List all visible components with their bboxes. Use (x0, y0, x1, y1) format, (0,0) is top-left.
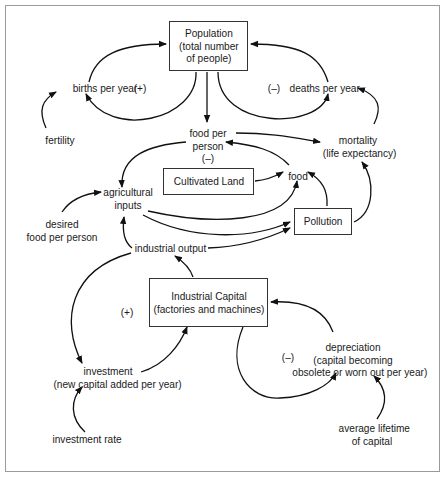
population-sublabel-1: (total number (179, 40, 239, 53)
link-mortality-to-deaths (358, 88, 378, 124)
deaths-per-year: deaths per year (290, 82, 356, 95)
investment-rate: investment rate (52, 433, 117, 446)
link-pollution-to-mortality (354, 162, 371, 222)
stock-pollution: Pollution (294, 208, 352, 235)
industrial-capital-sublabel: (factories and machines) (153, 303, 264, 316)
desired-food-per-person: desired food per person (25, 218, 99, 243)
link-ag-inputs-to-pollution (143, 215, 290, 235)
stock-industrial-capital: Industrial Capital (factories and machin… (149, 278, 268, 327)
link-industrial-output-to-ag-inputs (123, 217, 132, 248)
link-deaths-to-population (251, 44, 328, 82)
link-fertility-to-births (42, 92, 56, 128)
mortality: mortality (life expectancy) (323, 134, 393, 159)
industrial-output: industrial output (135, 242, 205, 255)
food: food (285, 170, 311, 183)
stock-population: Population (total number of people) (169, 21, 248, 71)
births-polarity: (+) (129, 82, 150, 95)
link-desired-food-to-ag-inputs (62, 192, 101, 212)
link-population-to-births (86, 72, 196, 120)
food-per-person: food per person (–) (183, 127, 232, 165)
link-industrial-output-to-pollution (208, 228, 290, 248)
population-label: Population (179, 27, 239, 40)
link-births-to-population (89, 44, 166, 82)
fertility: fertility (42, 134, 77, 147)
investment-polarity: (+) (119, 306, 135, 319)
link-avg-lifetime-to-depreciation (374, 376, 385, 419)
link-cultivated-land-to-food (255, 172, 283, 181)
link-population-to-deaths (218, 72, 328, 119)
investment: investment (new capital added per year) (53, 365, 162, 390)
link-food-per-person-to-mortality (236, 133, 320, 142)
population-sublabel-2: of people) (179, 52, 239, 65)
link-investment-rate-to-investment (73, 387, 85, 432)
cultivated-land-label: Cultivated Land (173, 175, 243, 188)
link-industrial-capital-to-output (175, 256, 193, 277)
link-depreciation-to-industrial-capital (271, 302, 333, 332)
agricultural-inputs: agricultural inputs (103, 186, 152, 211)
average-lifetime-of-capital: average lifetime of capital (339, 422, 406, 447)
stock-cultivated-land: Cultivated Land (163, 168, 254, 195)
depreciation: depreciation (capital becoming obsolete … (292, 341, 413, 379)
industrial-capital-label: Industrial Capital (153, 290, 264, 303)
deaths-polarity: (–) (263, 82, 284, 95)
link-food-to-food-per-person (226, 142, 289, 165)
pollution-label: Pollution (304, 215, 343, 228)
